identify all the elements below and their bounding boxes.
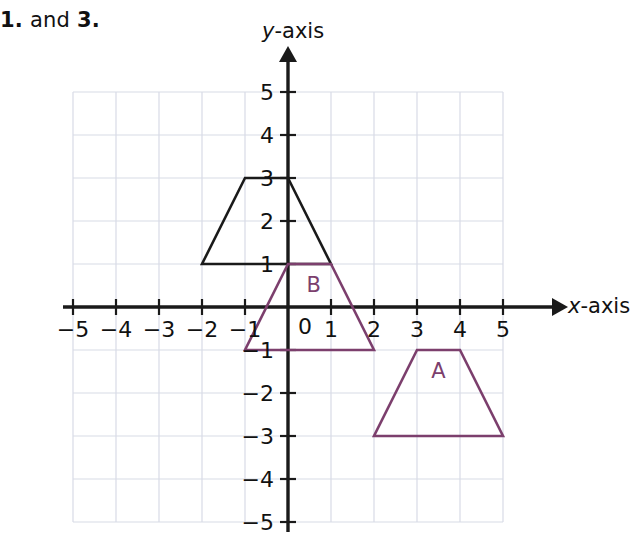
y-tick-label: 3	[260, 166, 274, 191]
x-tick-label: −2	[186, 317, 218, 342]
y-tick-label: 4	[260, 123, 274, 148]
coordinate-plane: BA −5−4−3−2−11234554321−1−2−3−4−50 y-axi…	[0, 0, 636, 541]
y-tick-label: −3	[242, 424, 274, 449]
shape-label-a: A	[431, 359, 446, 383]
y-tick-label: −5	[242, 510, 274, 535]
y-tick-label: 5	[260, 80, 274, 105]
x-tick-label: −4	[100, 317, 132, 342]
x-tick-label: 1	[324, 317, 338, 342]
x-tick-label: 5	[496, 317, 510, 342]
y-tick-label: 1	[260, 252, 274, 277]
x-tick-label: 3	[410, 317, 424, 342]
x-axis-label: x-axis	[567, 294, 630, 318]
y-tick-label: −2	[242, 381, 274, 406]
x-tick-label: 2	[367, 317, 381, 342]
worksheet-figure: 1. and 3. BA −5−4−3−2−11234554321−1−2−3−…	[0, 0, 636, 541]
y-tick-label: 2	[260, 209, 274, 234]
y-tick-label: −1	[242, 338, 274, 363]
x-tick-label: 4	[453, 317, 467, 342]
y-axis-label: y-axis	[261, 19, 324, 43]
x-tick-label: −5	[57, 317, 89, 342]
origin-label: 0	[298, 314, 312, 339]
x-tick-label: −3	[143, 317, 175, 342]
x-axis-arrowhead	[552, 298, 568, 316]
y-axis-arrowhead	[279, 46, 297, 62]
y-tick-label: −4	[242, 467, 274, 492]
shape-label-b: B	[307, 273, 321, 297]
